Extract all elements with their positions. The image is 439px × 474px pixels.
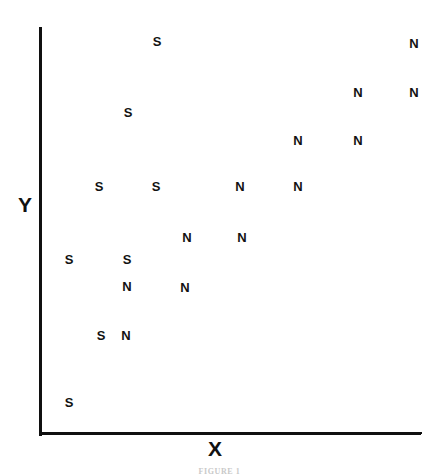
y-axis-title: Y bbox=[18, 194, 32, 215]
data-point-n: N bbox=[293, 134, 302, 147]
data-point-n: N bbox=[409, 37, 418, 50]
data-point-n: N bbox=[353, 86, 362, 99]
data-point-n: N bbox=[353, 134, 362, 147]
data-point-n: N bbox=[237, 231, 246, 244]
data-point-s: S bbox=[95, 180, 104, 193]
figure-caption: FIGURE 1 bbox=[0, 467, 439, 474]
x-axis-title: X bbox=[208, 438, 222, 459]
data-point-n: N bbox=[121, 329, 130, 342]
data-point-s: S bbox=[152, 180, 161, 193]
data-point-n: N bbox=[293, 180, 302, 193]
data-point-n: N bbox=[182, 231, 191, 244]
data-point-s: S bbox=[123, 253, 132, 266]
data-point-s: S bbox=[65, 253, 74, 266]
x-axis-line bbox=[39, 432, 421, 435]
data-point-n: N bbox=[122, 280, 131, 293]
data-point-s: S bbox=[153, 35, 162, 48]
data-point-s: S bbox=[65, 396, 74, 409]
data-point-n: N bbox=[180, 281, 189, 294]
data-point-s: S bbox=[124, 106, 133, 119]
data-point-s: S bbox=[97, 329, 106, 342]
data-point-n: N bbox=[235, 180, 244, 193]
data-point-n: N bbox=[409, 86, 418, 99]
y-axis-line bbox=[39, 27, 42, 436]
scatter-figure: Y X SSSSSSSSNNNNNNNNNNNN FIGURE 1 bbox=[0, 0, 439, 474]
